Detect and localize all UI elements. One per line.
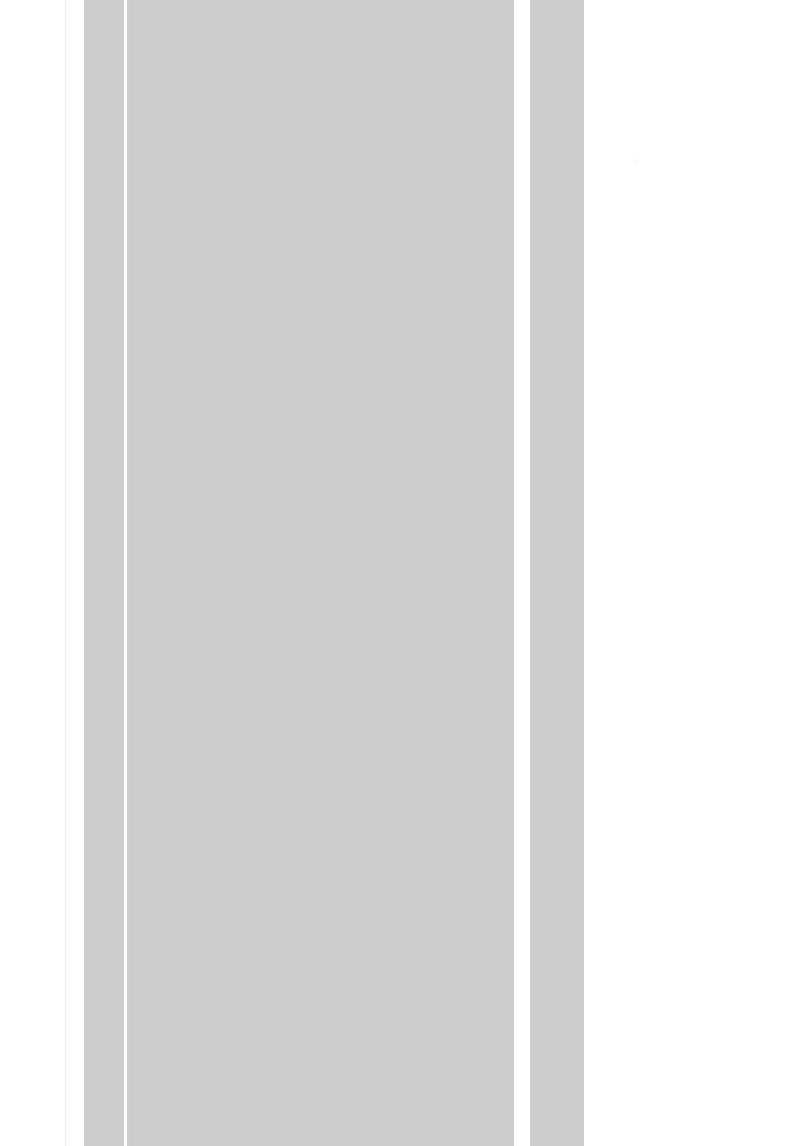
column-seam [129,0,130,1146]
image-artifact-speck [636,158,639,164]
main-content-text [127,0,128,1]
main-content-column [127,0,514,1146]
narrow-left-column-label [84,0,85,1]
right-side-column [530,0,584,1146]
right-side-column-label [530,0,531,1]
page-state-label [0,0,1,1]
right-gutter [514,0,530,1146]
left-margin-rule [65,0,66,1146]
narrow-left-column [84,0,124,1146]
document-page [0,0,800,1146]
